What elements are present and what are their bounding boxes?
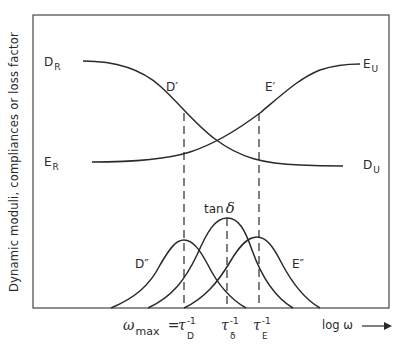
d-prime-curve xyxy=(83,61,343,166)
tau-d-sub: D xyxy=(187,332,194,341)
tau-delta-symbol: τ xyxy=(221,317,229,333)
d-r-main: D xyxy=(44,55,53,69)
tau-e-sub: E xyxy=(262,332,268,341)
tau-delta-label: τ-1δ xyxy=(221,318,239,332)
tau-d-symbol: τ xyxy=(178,317,186,333)
plot-frame xyxy=(33,15,389,308)
d-u-sub: U xyxy=(373,165,380,175)
d-u-label: DU xyxy=(363,159,380,171)
tan-delta-label: tanδ xyxy=(204,201,235,216)
tau-delta-sub: δ xyxy=(230,332,236,341)
d-double-prime-label: D″ xyxy=(135,258,149,270)
omega-max-label: ωmax = xyxy=(123,318,180,332)
e-u-main: E xyxy=(363,57,371,71)
tau-d-sup: -1 xyxy=(187,316,196,326)
tan-text: tan xyxy=(204,202,224,216)
d-r-sub: R xyxy=(54,62,60,72)
d-prime-label: D′ xyxy=(166,81,178,93)
e-r-sub: R xyxy=(53,162,59,172)
e-r-label: ER xyxy=(44,156,59,168)
arrow-head-icon xyxy=(384,322,392,330)
e-u-label: EU xyxy=(363,58,378,70)
tau-e-sup: -1 xyxy=(262,316,271,326)
relaxation-diagram xyxy=(0,0,401,346)
tau-delta-sup: -1 xyxy=(230,316,239,326)
e-r-main: E xyxy=(44,155,52,169)
e-double-prime-curve xyxy=(184,237,320,308)
d-u-main: D xyxy=(363,158,372,172)
tau-d-label: τ-1D xyxy=(178,318,196,332)
delta-symbol: δ xyxy=(226,199,235,217)
tan-delta-curve xyxy=(148,218,293,308)
tau-e-label: τ-1E xyxy=(253,318,271,332)
x-axis-label: log ω xyxy=(322,320,353,332)
e-prime-label: E′ xyxy=(265,81,275,93)
d-r-label: DR xyxy=(44,56,61,68)
tau-e-symbol: τ xyxy=(253,317,261,333)
d-double-prime-curve xyxy=(111,240,246,308)
e-u-sub: U xyxy=(372,64,379,74)
y-axis-label: Dynamic moduli, compliances or loss fact… xyxy=(7,32,21,292)
e-double-prime-label: E″ xyxy=(292,258,304,270)
omega-max-sub: max xyxy=(135,325,159,338)
omega-symbol: ω xyxy=(123,317,134,333)
